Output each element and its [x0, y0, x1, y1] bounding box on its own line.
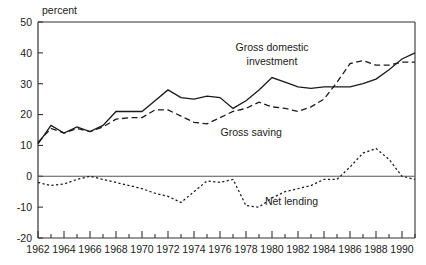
x-tick-label: 1990	[390, 243, 414, 255]
x-tick-label: 1962	[26, 243, 50, 255]
x-tick-label: 1974	[182, 243, 206, 255]
x-tick-label: 1964	[52, 243, 76, 255]
x-tick-label: 1968	[104, 243, 128, 255]
x-tick-label: 1980	[260, 243, 284, 255]
x-tick-label: 1984	[312, 243, 336, 255]
y-tick-label: 30	[20, 78, 32, 90]
x-tick-label: 1982	[286, 243, 310, 255]
x-tick-label: 1972	[156, 243, 180, 255]
label-gross-domestic-investment-line2: investment	[247, 55, 298, 67]
y-tick-label: 20	[20, 108, 32, 120]
label-net-lending: Net lending	[265, 195, 318, 207]
x-tick-label: 1986	[338, 243, 362, 255]
y-tick-label: 40	[20, 47, 32, 59]
y-tick-label: 0	[26, 170, 32, 182]
label-gross-saving: Gross saving	[221, 126, 282, 138]
x-tick-label: 1988	[364, 243, 388, 255]
figure-container: percent-20-10010203040501962196419661968…	[0, 0, 426, 265]
y-tick-label: 10	[20, 139, 32, 151]
y-axis-title: percent	[42, 4, 77, 16]
line-chart: percent-20-10010203040501962196419661968…	[0, 0, 426, 265]
x-tick-label: 1970	[130, 243, 154, 255]
x-tick-label: 1976	[208, 243, 232, 255]
x-tick-label: 1978	[234, 243, 258, 255]
series-path-net-lending	[38, 149, 415, 208]
y-tick-label: -10	[17, 201, 32, 213]
y-tick-label: 50	[20, 16, 32, 28]
label-gross-domestic-investment-line1: Gross domestic	[236, 41, 309, 53]
x-tick-label: 1966	[78, 243, 102, 255]
y-tick-label: -20	[17, 232, 32, 244]
